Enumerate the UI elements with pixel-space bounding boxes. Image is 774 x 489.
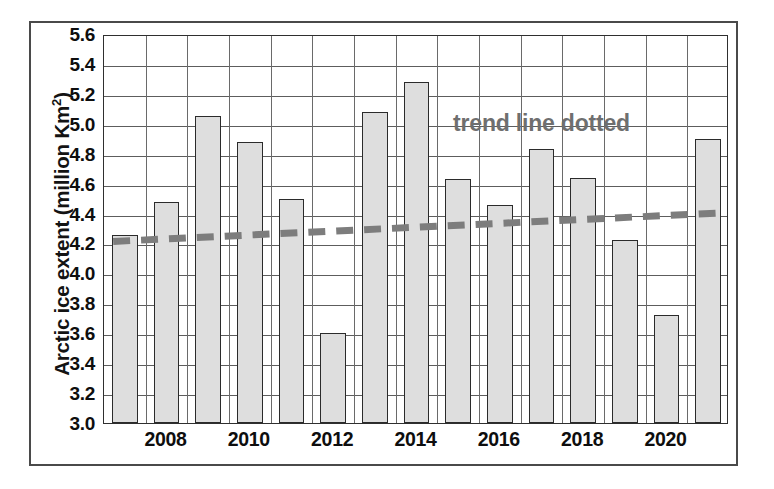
bar [237,142,263,423]
bar [445,179,471,423]
category-separator [187,36,188,423]
y-axis-tick: 5.2 [69,84,95,106]
category-separator [604,36,605,423]
category-separator [271,36,272,423]
category-separator [354,36,355,423]
y-axis-tick: 4.6 [69,174,95,196]
bar [362,112,388,423]
bar [320,333,346,423]
category-separator [229,36,230,423]
x-axis-tick-labels: 2008201020122014201620182020 [103,428,728,462]
x-axis-tick: 2018 [561,428,603,451]
y-axis-tick: 4.2 [69,233,95,255]
y-axis-tick: 3.0 [69,413,95,435]
category-separator [521,36,522,423]
x-axis-tick: 2010 [228,428,270,451]
chart-figure: Arctic ice extent (million Km2) 5.65.45.… [0,0,774,489]
y-axis-tick: 3.4 [69,353,95,375]
y-axis-tick: 5.0 [69,114,95,136]
category-separator [396,36,397,423]
y-axis-tick: 4.4 [69,204,95,226]
bar [112,235,138,424]
bar [529,149,555,423]
bar [487,205,513,423]
y-axis-tick: 3.8 [69,293,95,315]
y-axis-tick: 4.0 [69,263,95,285]
category-separator [562,36,563,423]
trend-line-note: trend line dotted [453,109,630,136]
plot-area: trend line dotted [103,35,728,424]
x-axis-tick: 2016 [478,428,520,451]
x-axis-tick: 2012 [311,428,353,451]
category-separator [312,36,313,423]
y-axis-tick: 5.6 [69,24,95,46]
category-separator [479,36,480,423]
y-axis-tick: 3.6 [69,323,95,345]
bar [154,202,180,423]
x-axis-tick: 2020 [644,428,686,451]
x-axis-tick: 2014 [394,428,436,451]
gridline [104,66,727,67]
bar [612,240,638,423]
category-separator [646,36,647,423]
bar [404,82,430,423]
x-axis-tick: 2008 [144,428,186,451]
plot-inner: trend line dotted [104,36,727,423]
y-axis-tick-labels: 5.65.45.25.04.84.64.44.24.03.83.63.43.23… [45,35,101,424]
bar [695,139,721,423]
y-axis-tick: 5.4 [69,54,95,76]
y-axis-tick: 3.2 [69,383,95,405]
category-separator [146,36,147,423]
bar [195,116,221,423]
bar [279,199,305,423]
bar [570,178,596,423]
bar [654,315,680,423]
category-separator [437,36,438,423]
y-axis-tick: 4.8 [69,144,95,166]
category-separator [687,36,688,423]
